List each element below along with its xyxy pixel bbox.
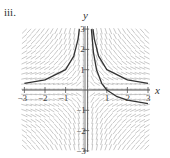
y-tick-label: −2 — [76, 126, 86, 136]
x-tick-label: 2 — [125, 93, 129, 103]
y-tick-label: 2 — [80, 44, 85, 54]
slope-field-plot: x y −3−2−1123321−1−2−3 — [0, 0, 170, 158]
y-tick-label: −1 — [76, 105, 86, 115]
y-tick-label: −3 — [76, 146, 86, 156]
x-tick-label: 3 — [146, 93, 151, 103]
x-axis-label: x — [154, 84, 160, 96]
x-tick-label: −2 — [38, 93, 48, 103]
y-tick-label: 1 — [80, 65, 85, 75]
x-tick-label: −3 — [17, 93, 27, 103]
x-tick-label: −1 — [59, 93, 69, 103]
y-axis-label: y — [82, 9, 88, 21]
x-tick-label: 1 — [105, 93, 110, 103]
y-tick-label: 3 — [80, 24, 85, 34]
